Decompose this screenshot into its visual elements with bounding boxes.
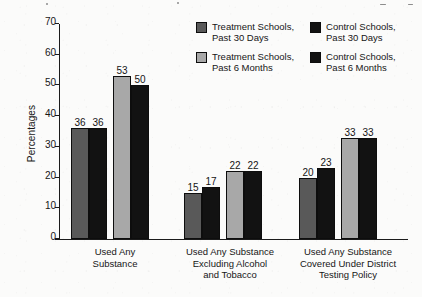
legend-color-swatch bbox=[196, 52, 207, 63]
legend-item: Control Schools, Past 30 Days bbox=[310, 21, 396, 43]
bar: 23 bbox=[317, 168, 335, 239]
legend-item: Treatment Schools, Past 6 Months bbox=[196, 51, 294, 73]
bar-value-label: 22 bbox=[229, 160, 240, 171]
x-axis-line bbox=[55, 239, 408, 240]
bar-value-label: 36 bbox=[74, 117, 85, 128]
legend-color-swatch bbox=[196, 22, 207, 33]
legend-item-label: Control Schools, Past 30 Days bbox=[326, 21, 396, 43]
y-axis-tick-label: 20 bbox=[45, 170, 56, 181]
scan-speck bbox=[408, 4, 413, 5]
bar-value-label: 15 bbox=[187, 182, 198, 193]
scan-speck bbox=[380, 4, 386, 5]
y-axis-line bbox=[59, 24, 60, 240]
y-axis-tick-label: 10 bbox=[45, 200, 56, 211]
bar-value-label: 23 bbox=[320, 157, 331, 168]
bar: 50 bbox=[131, 85, 149, 239]
bar-chart-figure: Percentages 010203040506070 363653501517… bbox=[0, 0, 422, 297]
bar-value-label: 20 bbox=[302, 167, 313, 178]
y-axis-tick-label: 50 bbox=[45, 77, 56, 88]
legend-item-label: Treatment Schools, Past 6 Months bbox=[212, 51, 294, 73]
bar: 20 bbox=[299, 178, 317, 239]
y-axis-tick-label: 60 bbox=[45, 47, 56, 58]
y-axis-tick-label: 30 bbox=[45, 139, 56, 150]
bar: 22 bbox=[244, 171, 262, 239]
y-axis-tick-label: 0 bbox=[50, 231, 56, 242]
bar: 33 bbox=[341, 138, 359, 239]
bar: 33 bbox=[359, 138, 377, 239]
bar: 22 bbox=[226, 171, 244, 239]
bar-value-label: 50 bbox=[134, 74, 145, 85]
bar: 53 bbox=[113, 76, 131, 239]
bar: 17 bbox=[202, 187, 220, 239]
x-axis-category-label: Used Any Substance Excluding Alcohol and… bbox=[168, 246, 292, 281]
legend-item-label: Treatment Schools, Past 30 Days bbox=[212, 21, 294, 43]
y-axis-label: Percentages bbox=[26, 74, 37, 194]
scan-speck bbox=[177, 2, 179, 4]
legend-item: Treatment Schools, Past 30 Days bbox=[196, 21, 294, 43]
bar: 36 bbox=[71, 128, 89, 239]
bar-value-label: 22 bbox=[247, 160, 258, 171]
bar-value-label: 33 bbox=[362, 127, 373, 138]
legend-color-swatch bbox=[310, 52, 321, 63]
chart-legend: Treatment Schools, Past 30 DaysControl S… bbox=[196, 21, 396, 73]
bar: 36 bbox=[89, 128, 107, 239]
y-axis-tick-label: 70 bbox=[45, 16, 56, 27]
y-axis-tick-label: 40 bbox=[45, 108, 56, 119]
x-axis-category-label: Used Any Substance bbox=[57, 246, 173, 269]
bar-value-label: 17 bbox=[205, 176, 216, 187]
legend-item: Control Schools, Past 6 Months bbox=[310, 51, 396, 73]
bar-value-label: 53 bbox=[116, 65, 127, 76]
x-axis-category-label: Used Any Substance Covered Under Distric… bbox=[283, 246, 413, 281]
scan-speck bbox=[46, 3, 48, 5]
legend-item-label: Control Schools, Past 6 Months bbox=[326, 51, 396, 73]
bar-value-label: 33 bbox=[344, 127, 355, 138]
bar: 15 bbox=[184, 193, 202, 239]
bar-value-label: 36 bbox=[92, 117, 103, 128]
legend-color-swatch bbox=[310, 22, 321, 33]
